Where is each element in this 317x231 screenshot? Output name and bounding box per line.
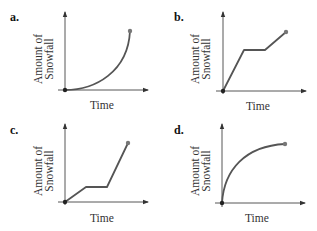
- chart-c-end-dot: [126, 141, 130, 145]
- chart-b-end-dot: [284, 30, 288, 34]
- charts-graphics: [0, 0, 317, 231]
- chart-b-origin-dot: [221, 89, 225, 93]
- chart-c-axes: [58, 124, 148, 205]
- chart-c-line: [65, 143, 128, 202]
- chart-b-line: [223, 32, 286, 91]
- chart-d-axes: [215, 124, 305, 207]
- chart-a-end-dot: [128, 29, 132, 33]
- chart-c-origin-dot: [63, 200, 67, 204]
- chart-a-origin-dot: [63, 88, 67, 92]
- chart-d-curve: [222, 144, 285, 203]
- chart-d-end-dot: [283, 142, 287, 146]
- chart-b-axes: [216, 12, 306, 94]
- chart-a-curve: [65, 31, 130, 90]
- chart-d-origin-dot: [220, 201, 224, 205]
